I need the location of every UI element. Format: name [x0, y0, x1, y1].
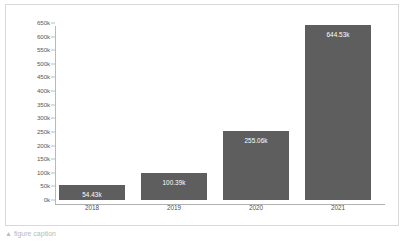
y-axis-tick-label: 400k [37, 88, 50, 94]
x-axis-tick-label: 2019 [133, 204, 215, 211]
plot-area: 54.43k100.39k255.06k644.53k [51, 23, 379, 200]
y-axis-tick-label: 650k [37, 20, 50, 26]
y-axis-tick-label: 0k [44, 197, 50, 203]
y-axis-tick-label: 450k [37, 74, 50, 80]
x-axis-tick-label: 2020 [215, 204, 297, 211]
bar[interactable]: 54.43k [59, 185, 125, 200]
bar[interactable]: 100.39k [141, 173, 207, 200]
y-axis-tick-label: 200k [37, 142, 50, 148]
x-axis-tick-label: 2018 [51, 204, 133, 211]
y-axis-tick-label: 600k [37, 34, 50, 40]
y-axis-tick-label: 550k [37, 47, 50, 53]
bar-value-label: 255.06k [223, 137, 289, 144]
figure-caption-text: ▲ figure caption [5, 231, 56, 238]
y-axis-tick-label: 250k [37, 129, 50, 135]
bar-value-label: 54.43k [59, 191, 125, 198]
x-axis-tick-label: 2021 [297, 204, 379, 211]
y-axis-tick-label: 500k [37, 61, 50, 67]
y-axis-tick-label: 100k [37, 170, 50, 176]
bar-value-label: 100.39k [141, 179, 207, 186]
figure-caption: ▲ figure caption [0, 231, 409, 242]
figure-frame: 0k50k100k150k200k250k300k350k400k450k500… [5, 4, 399, 226]
caption-marker-icon: ▲ [5, 231, 12, 238]
y-axis-tick-label: 300k [37, 115, 50, 121]
caption-body: figure caption [14, 231, 56, 237]
bar[interactable]: 644.53k [305, 25, 371, 201]
y-axis-tick-labels: 0k50k100k150k200k250k300k350k400k450k500… [6, 5, 50, 242]
bar-value-label: 644.53k [305, 31, 371, 38]
chart-screenshot: 0k50k100k150k200k250k300k350k400k450k500… [0, 0, 409, 242]
y-axis-tick-label: 150k [37, 156, 50, 162]
y-axis-tick-label: 50k [40, 183, 50, 189]
y-axis-tick-label: 350k [37, 102, 50, 108]
bar[interactable]: 255.06k [223, 131, 289, 200]
